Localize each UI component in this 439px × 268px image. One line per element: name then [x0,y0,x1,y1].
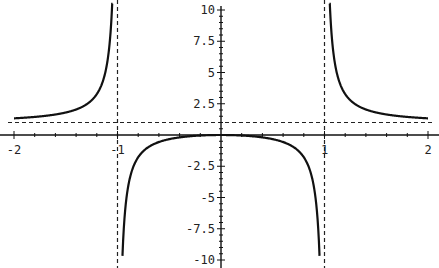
curve-right-branch [329,4,428,119]
function-plot: -2-112107.552.5-2.5-5-7.5-10 [0,0,439,268]
x-tick-label: 2 [424,143,431,157]
y-tick-label: 5 [208,66,215,80]
curve-left-branch [14,4,113,119]
y-tick-label: 2.5 [193,97,215,111]
x-tick-label: -2 [7,143,21,157]
x-tick-label: 1 [321,143,328,157]
y-tick-label: 7.5 [193,34,215,48]
y-tick-label: -5 [201,191,215,205]
y-tick-label: -10 [193,253,215,267]
y-tick-label: 10 [201,3,215,17]
y-tick-label: -7.5 [186,222,215,236]
y-tick-label: -2.5 [186,159,215,173]
x-tick-label: -1 [110,143,124,157]
